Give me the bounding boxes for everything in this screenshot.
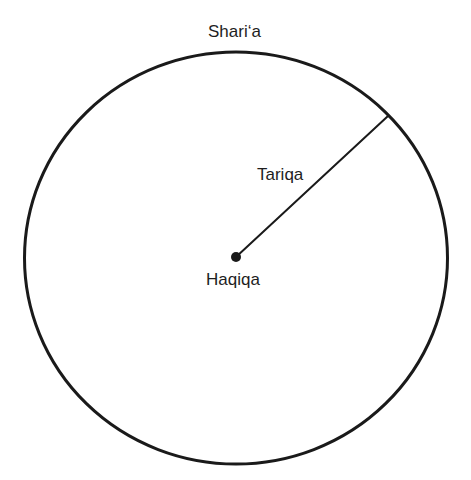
diagram-canvas: Shari‘a Tariqa Haqiqa (0, 0, 471, 480)
tariqa-label: Tariqa (257, 166, 303, 183)
haqiqa-center-dot (231, 252, 241, 262)
sharia-label: Shari‘a (208, 23, 261, 40)
diagram-svg (0, 0, 471, 480)
tariqa-path-line (236, 116, 388, 257)
haqiqa-label: Haqiqa (206, 271, 260, 288)
